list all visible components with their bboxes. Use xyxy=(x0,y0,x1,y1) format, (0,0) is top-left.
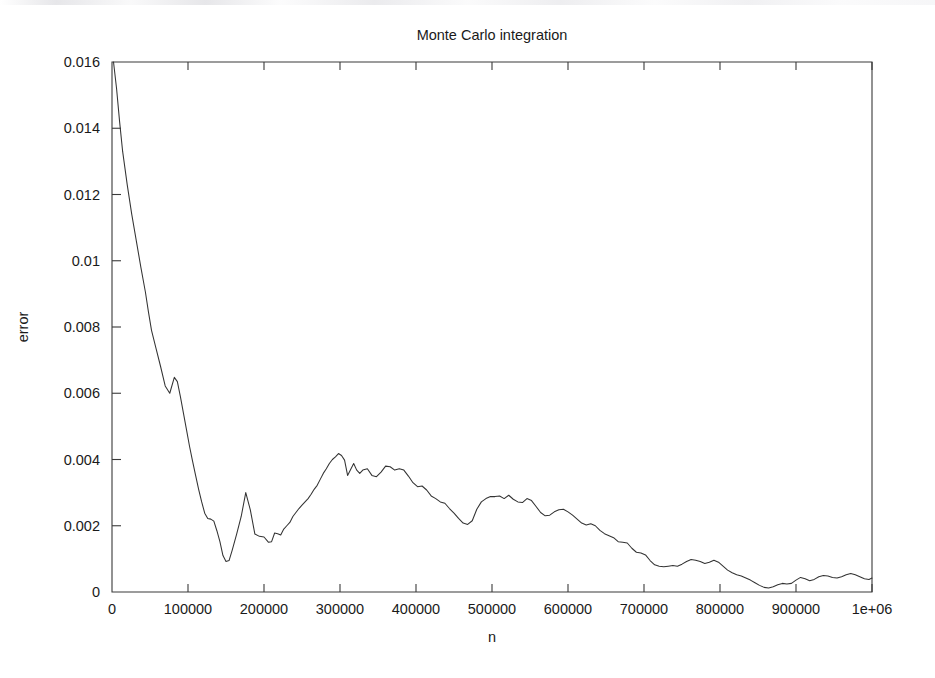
axis-frame-path xyxy=(112,62,872,592)
y-tick-label: 0.012 xyxy=(64,187,100,203)
y-axis-tick-labels: 00.0020.0040.0060.0080.010.0120.0140.016 xyxy=(64,54,100,600)
y-tick-label: 0.008 xyxy=(64,319,100,335)
x-tick-label: 1e+06 xyxy=(852,601,893,617)
data-series-layer xyxy=(114,62,872,588)
x-axis-ticks xyxy=(188,62,872,592)
y-tick-label: 0.004 xyxy=(64,452,100,468)
chart-title: Monte Carlo integration xyxy=(417,27,568,43)
y-axis-label: error xyxy=(15,312,31,343)
chart-figure: Monte Carlo integration 0100000200000300… xyxy=(0,0,935,678)
x-tick-label: 700000 xyxy=(620,601,668,617)
y-tick-label: 0.014 xyxy=(64,120,100,136)
y-tick-label: 0.002 xyxy=(64,518,100,534)
x-tick-label: 500000 xyxy=(468,601,516,617)
plot-frame xyxy=(112,62,872,592)
y-tick-label: 0 xyxy=(92,584,100,600)
y-tick-label: 0.01 xyxy=(72,253,100,269)
x-tick-label: 800000 xyxy=(696,601,744,617)
x-axis-label: n xyxy=(488,629,496,645)
x-tick-label: 900000 xyxy=(772,601,820,617)
x-tick-label: 0 xyxy=(108,601,116,617)
y-tick-label: 0.006 xyxy=(64,385,100,401)
x-tick-label: 300000 xyxy=(316,601,364,617)
x-axis-tick-labels: 0100000200000300000400000500000600000700… xyxy=(108,601,892,617)
x-tick-label: 200000 xyxy=(240,601,288,617)
y-tick-label: 0.016 xyxy=(64,54,100,70)
y-axis-ticks xyxy=(112,128,121,526)
series-error-line xyxy=(114,62,872,588)
monte-carlo-error-chart: Monte Carlo integration 0100000200000300… xyxy=(0,0,935,678)
x-tick-label: 400000 xyxy=(392,601,440,617)
x-tick-label: 100000 xyxy=(164,601,212,617)
x-tick-label: 600000 xyxy=(544,601,592,617)
